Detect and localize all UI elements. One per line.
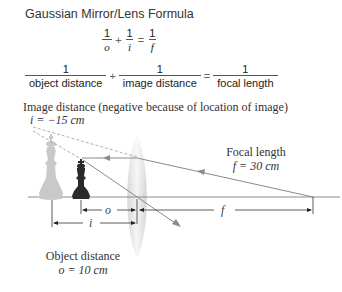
dashed-virtual-ray-2 bbox=[33, 131, 81, 159]
dimension-label-i: i bbox=[89, 216, 92, 231]
lens-diagram bbox=[0, 0, 342, 292]
virtual-image-king bbox=[38, 134, 64, 200]
arrowhead-icon bbox=[103, 155, 110, 161]
dimension-label-f: f bbox=[221, 203, 224, 218]
object-king bbox=[72, 159, 90, 199]
dimension-label-o: o bbox=[105, 203, 111, 218]
arrowhead-icon bbox=[172, 219, 181, 227]
ray-focal-to-lens bbox=[82, 158, 313, 197]
